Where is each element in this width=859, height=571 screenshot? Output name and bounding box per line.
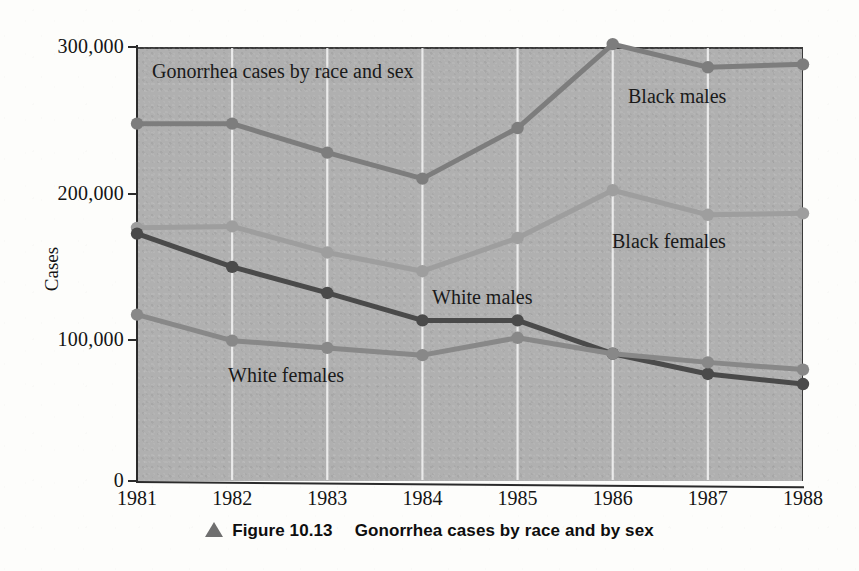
figure-10-13: 0 100,000 200,000 300,000 Cases 19811982… (0, 0, 859, 571)
series-label-white-males: White males (432, 286, 533, 308)
data-point-black-females-1985 (511, 232, 523, 244)
figure-number: Figure 10.13 (232, 521, 332, 540)
vertical-gridlines (232, 48, 708, 480)
chart-inner-title: Gonorrhea cases by race and sex (152, 60, 414, 82)
data-point-white-females-1984 (416, 349, 428, 361)
series-label-black-males: Black males (628, 85, 726, 107)
data-point-black-females-1987 (702, 209, 714, 221)
figure-caption: Figure 10.13Gonorrhea cases by race and … (0, 521, 859, 541)
triangle-up-icon (205, 522, 223, 537)
data-point-black-males-1985 (511, 122, 523, 134)
data-point-white-males-1981 (131, 227, 143, 239)
series-label-white-females: White females (228, 364, 344, 386)
data-point-white-males-1988 (797, 378, 809, 390)
data-point-white-males-1987 (702, 368, 714, 380)
data-point-white-females-1987 (702, 356, 714, 368)
data-point-black-males-1984 (416, 172, 428, 184)
data-point-white-females-1983 (321, 342, 333, 354)
data-point-black-females-1986 (607, 184, 619, 196)
data-point-black-males-1988 (797, 58, 809, 70)
chart-data-layer (0, 0, 859, 571)
data-point-black-males-1986 (607, 38, 619, 50)
data-point-white-males-1983 (321, 287, 333, 299)
data-point-black-males-1983 (321, 146, 333, 158)
data-point-white-males-1982 (226, 261, 238, 273)
data-point-white-males-1985 (511, 314, 523, 326)
data-point-white-females-1988 (797, 363, 809, 375)
figure-caption-title: Gonorrhea cases by race and by sex (355, 521, 654, 540)
series-label-black-females: Black females (612, 230, 726, 252)
data-point-black-females-1984 (416, 265, 428, 277)
data-point-white-females-1986 (607, 347, 619, 359)
data-point-black-males-1982 (226, 117, 238, 129)
data-point-white-females-1982 (226, 334, 238, 346)
data-point-black-males-1987 (702, 61, 714, 73)
data-point-black-females-1988 (797, 207, 809, 219)
data-point-black-females-1982 (226, 220, 238, 232)
data-point-black-males-1981 (131, 117, 143, 129)
data-point-white-males-1984 (416, 314, 428, 326)
data-point-white-females-1985 (511, 332, 523, 344)
data-point-white-females-1981 (131, 308, 143, 320)
data-point-black-females-1983 (321, 246, 333, 258)
